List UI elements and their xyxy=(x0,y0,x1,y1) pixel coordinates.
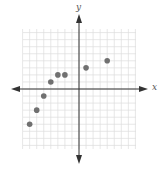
x-axis-arrow-left-icon xyxy=(11,86,20,92)
data-point xyxy=(34,107,40,113)
data-point xyxy=(27,121,33,127)
y-axis-arrow-up-icon xyxy=(76,14,82,23)
data-points xyxy=(27,58,110,127)
y-axis-label: y xyxy=(76,2,81,12)
x-axis-label: x xyxy=(152,82,157,92)
data-point xyxy=(62,72,68,78)
x-axis-arrow-right-icon xyxy=(139,86,148,92)
scatter-plot xyxy=(0,0,162,170)
data-point xyxy=(48,79,54,85)
data-point xyxy=(41,93,47,99)
data-point xyxy=(83,65,89,71)
data-point xyxy=(55,72,61,78)
data-point xyxy=(104,58,110,64)
axes xyxy=(11,14,148,164)
y-axis-arrow-down-icon xyxy=(76,155,82,164)
